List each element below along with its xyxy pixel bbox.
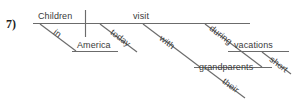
word-verb: visit <box>133 12 149 21</box>
word-subject: Children <box>38 12 72 21</box>
word-prep-object-america: America <box>77 41 111 50</box>
word-direct-object-grandparents: grandparents <box>199 63 253 72</box>
sentence-diagram-page: 7) Children visit <box>0 0 293 108</box>
word-prep-object-vacations: vacations <box>234 41 273 50</box>
